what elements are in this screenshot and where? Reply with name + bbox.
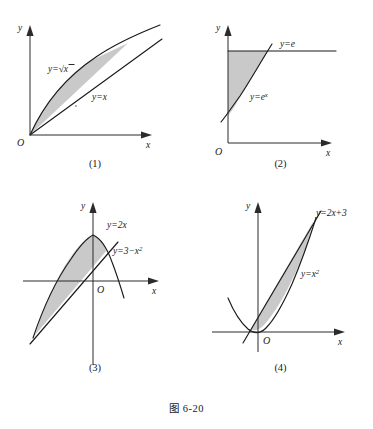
x-axis-arrow-1 bbox=[141, 131, 152, 138]
label-parab3-exponent: 2 bbox=[139, 245, 143, 252]
x-axis-label-3: x bbox=[151, 286, 157, 296]
y-axis-label-3: y bbox=[80, 201, 86, 211]
label-y-sqrt-x: y=√x bbox=[47, 64, 75, 74]
panel-3: y x O y=2x y=3−x2 (3) bbox=[0, 180, 190, 385]
panel-1-plot: y x O y=√x y=x bbox=[0, 0, 190, 180]
panel-4: y x O y=2x+3 y=x2 (4) bbox=[188, 180, 373, 385]
y-axis-arrow-4 bbox=[254, 202, 261, 213]
scan-speck-1 bbox=[75, 105, 77, 107]
svg-text:y=√x: y=√x bbox=[47, 64, 69, 74]
panel-number-4: (4) bbox=[188, 362, 373, 373]
origin-label-1: O bbox=[17, 137, 24, 148]
y-axis-label-1: y bbox=[17, 23, 23, 33]
label-parab4-base: y=x bbox=[300, 269, 317, 279]
y-axis-label-4: y bbox=[245, 201, 251, 211]
y-axis-arrow-1 bbox=[26, 25, 33, 36]
x-axis-label-4: x bbox=[337, 337, 343, 347]
label-exp-exponent: x bbox=[264, 91, 268, 98]
label-exp-base: y=e bbox=[249, 92, 265, 102]
y-axis-label-2: y bbox=[215, 23, 221, 33]
panel-2-plot: y x O y=e y=ex bbox=[188, 0, 373, 180]
panel-number-1: (1) bbox=[0, 158, 190, 169]
curve-sqrt-x bbox=[30, 25, 160, 135]
panel-number-3: (3) bbox=[0, 362, 190, 373]
label-y-equals-x-squared: y=x2 bbox=[300, 268, 320, 279]
label-y-sqrt-x-prefix: y= bbox=[47, 64, 59, 74]
label-y-equals-e: y=e bbox=[279, 39, 295, 49]
x-axis-arrow-3 bbox=[148, 277, 159, 284]
panel-1: y x O y=√x y=x (1) bbox=[0, 0, 190, 180]
x-axis-label-2: x bbox=[325, 148, 331, 158]
origin-label-3: O bbox=[97, 284, 104, 295]
figure-sheet: y x O y=√x y=x (1) bbox=[0, 0, 373, 429]
y-axis-arrow-3 bbox=[89, 202, 96, 213]
x-axis-label-1: x bbox=[145, 140, 151, 150]
origin-label-4: O bbox=[263, 335, 270, 346]
label-y-equals-x: y=x bbox=[91, 92, 108, 102]
label-y-3-minus-x-squared: y=3−x2 bbox=[112, 245, 143, 256]
origin-label-2: O bbox=[215, 146, 222, 157]
x-axis-arrow-4 bbox=[334, 328, 345, 335]
figure-caption: 图 6-20 bbox=[0, 400, 373, 415]
panel-2: y x O y=e y=ex (2) bbox=[188, 0, 373, 180]
x-axis-arrow-2 bbox=[321, 139, 332, 146]
panel-4-plot: y x O y=2x+3 y=x2 bbox=[188, 180, 373, 385]
y-axis-arrow-2 bbox=[224, 25, 231, 36]
curve-y-equals-x bbox=[30, 39, 162, 135]
panel-3-plot: y x O y=2x y=3−x2 bbox=[0, 180, 190, 385]
label-y-equals-exp-x: y=ex bbox=[249, 91, 268, 102]
label-y-sqrt-x-radicand: x bbox=[63, 64, 69, 74]
label-parab3-base: y=3−x bbox=[112, 246, 140, 256]
label-y-equals-2x-plus-3: y=2x+3 bbox=[315, 208, 347, 218]
label-y-equals-2x: y=2x bbox=[106, 220, 127, 230]
shaded-region-1 bbox=[30, 43, 128, 135]
label-parab4-exponent: 2 bbox=[316, 268, 320, 275]
panel-number-2: (2) bbox=[188, 158, 373, 169]
